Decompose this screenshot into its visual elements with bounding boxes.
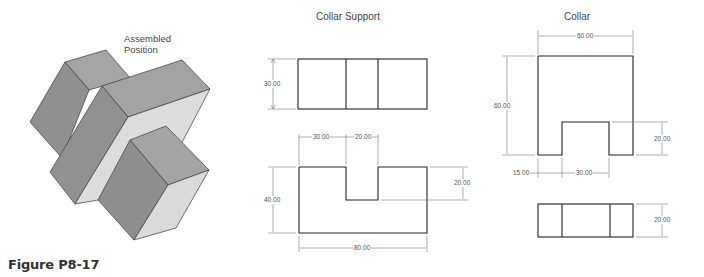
cs-front-left-width-dim: 30.00 [312,133,330,141]
collar-front-dims [502,30,668,178]
collar-slot-depth-dim: 20.00 [653,135,671,143]
cs-front-slot-depth-dim: 20.00 [453,179,471,187]
collar-support-front-dims [268,134,468,252]
drawing-canvas [0,0,704,277]
assembled-position-label: Assembled Position [124,33,171,55]
figure-caption: Figure P8-17 [8,257,99,272]
isometric-assembly [30,50,210,240]
collar-support-top-view [298,59,427,109]
collar-height-dim: 60.00 [493,102,511,110]
collar-front-view [538,56,633,155]
assembled-label-line2: Position [124,44,171,55]
cs-front-height-dim: 40.00 [263,196,281,204]
cs-top-height-dim: 30.00 [263,80,281,88]
collar-left-offset-dim: 15.00 [512,169,530,177]
cs-front-overall-width-dim: 80.00 [353,244,371,252]
collar-bottom-height-dim: 20.00 [653,216,671,224]
collar-bottom-view [538,204,633,237]
collar-slot-width-dim: 30.00 [575,169,593,177]
assembled-label-line1: Assembled [124,33,171,44]
cs-front-slot-width-dim: 20.00 [354,133,372,141]
collar-width-dim: 60.00 [576,32,594,40]
collar-title: Collar [564,11,590,22]
collar-support-title: Collar Support [316,11,380,22]
